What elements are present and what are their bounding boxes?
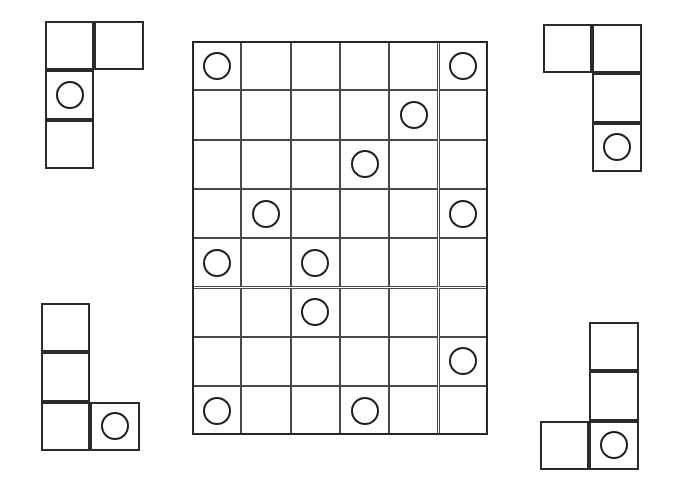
grid-cell[interactable] xyxy=(241,386,290,435)
token-circle[interactable] xyxy=(252,200,280,228)
grid-cell[interactable] xyxy=(389,41,438,90)
grid-cell[interactable] xyxy=(389,288,438,337)
grid-cell[interactable] xyxy=(192,337,241,386)
grid-cell[interactable] xyxy=(439,90,488,139)
token-circle[interactable] xyxy=(203,52,231,80)
grid-cell[interactable] xyxy=(389,386,438,435)
grid-cell[interactable] xyxy=(540,421,589,470)
grid-cell[interactable] xyxy=(439,386,488,435)
token-circle[interactable] xyxy=(101,412,129,440)
piece-top-left[interactable] xyxy=(45,21,144,169)
grid-cell[interactable] xyxy=(192,189,241,238)
grid-cell[interactable] xyxy=(45,120,94,169)
grid-cell[interactable] xyxy=(439,288,488,337)
grid-cell[interactable] xyxy=(439,140,488,189)
grid-cell[interactable] xyxy=(389,337,438,386)
grid-cell[interactable] xyxy=(291,337,340,386)
token-circle[interactable] xyxy=(449,52,477,80)
piece-bottom-left[interactable] xyxy=(41,303,140,451)
grid-cell[interactable] xyxy=(589,371,638,420)
grid-cell[interactable] xyxy=(340,90,389,139)
main-board[interactable] xyxy=(192,41,488,435)
token-circle[interactable] xyxy=(449,200,477,228)
grid-cell[interactable] xyxy=(192,288,241,337)
token-circle[interactable] xyxy=(203,249,231,277)
grid-cell[interactable] xyxy=(340,288,389,337)
puzzle-canvas xyxy=(0,0,681,492)
grid-cell[interactable] xyxy=(291,41,340,90)
grid-cell[interactable] xyxy=(543,24,592,73)
grid-cell[interactable] xyxy=(41,352,90,401)
grid-cell[interactable] xyxy=(439,238,488,287)
grid-cell[interactable] xyxy=(241,288,290,337)
grid-cell[interactable] xyxy=(340,337,389,386)
grid-cell[interactable] xyxy=(291,189,340,238)
grid-cell[interactable] xyxy=(241,41,290,90)
grid-cell[interactable] xyxy=(41,303,90,352)
token-circle[interactable] xyxy=(203,397,231,425)
grid-cell[interactable] xyxy=(340,238,389,287)
grid-cell[interactable] xyxy=(389,189,438,238)
token-circle[interactable] xyxy=(600,431,628,459)
grid-cell[interactable] xyxy=(592,24,641,73)
grid-cell[interactable] xyxy=(94,21,143,70)
grid-cell[interactable] xyxy=(241,90,290,139)
grid-cell[interactable] xyxy=(592,73,641,122)
grid-cell[interactable] xyxy=(241,140,290,189)
token-circle[interactable] xyxy=(56,81,84,109)
grid-cell[interactable] xyxy=(45,21,94,70)
token-circle[interactable] xyxy=(351,150,379,178)
grid-cell[interactable] xyxy=(192,140,241,189)
grid-cell[interactable] xyxy=(192,90,241,139)
grid-cell[interactable] xyxy=(389,238,438,287)
grid-cell[interactable] xyxy=(389,140,438,189)
token-circle[interactable] xyxy=(603,133,631,161)
grid-cell[interactable] xyxy=(41,402,90,451)
piece-bottom-right[interactable] xyxy=(540,322,639,470)
grid-cell[interactable] xyxy=(291,386,340,435)
grid-cell[interactable] xyxy=(589,322,638,371)
grid-cell[interactable] xyxy=(291,90,340,139)
grid-cell[interactable] xyxy=(241,337,290,386)
grid-cell[interactable] xyxy=(340,189,389,238)
grid-cell[interactable] xyxy=(241,238,290,287)
token-circle[interactable] xyxy=(400,101,428,129)
token-circle[interactable] xyxy=(351,397,379,425)
piece-top-right[interactable] xyxy=(543,24,642,172)
grid-cell[interactable] xyxy=(340,41,389,90)
token-circle[interactable] xyxy=(301,249,329,277)
grid-cell[interactable] xyxy=(291,140,340,189)
